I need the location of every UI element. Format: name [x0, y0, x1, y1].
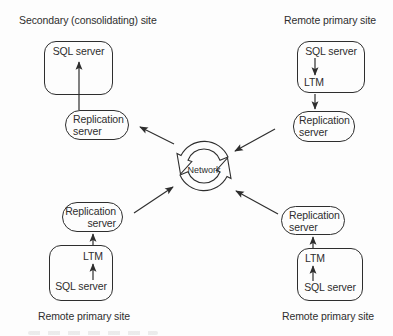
sql-server-label-remote-bottom-left: SQL server: [50, 281, 112, 293]
sql-ltm-box-remote-bottom-left: LTM SQL server: [49, 245, 113, 301]
replication-label-line1: Replication: [299, 115, 354, 127]
sql-server-box-secondary: SQL server: [44, 41, 113, 95]
replication-server-node-remote-top-right: Replication server: [293, 111, 355, 142]
sql-server-label-secondary: SQL server: [45, 42, 112, 58]
ltm-label-remote-bottom-left: LTM: [83, 251, 103, 263]
replication-server-node-secondary: Replication server: [65, 110, 129, 140]
cropped-caption-remnant: [28, 331, 158, 335]
replication-label-line2: server: [299, 127, 354, 139]
site-label-secondary: Secondary (consolidating) site: [19, 15, 157, 27]
site-label-remote-top-right: Remote primary site: [284, 15, 376, 27]
sql-ltm-box-remote-bottom-right: LTM SQL server: [297, 248, 363, 301]
site-label-remote-bottom-left: Remote primary site: [38, 311, 130, 323]
replication-label-line2: server: [289, 222, 344, 234]
arrow-remote-top-right-to-network: [235, 129, 275, 151]
replication-server-node-remote-bottom-left: Replication server: [62, 202, 123, 232]
site-label-remote-bottom-right: Remote primary site: [282, 311, 374, 323]
sql-ltm-box-remote-top-right: SQL server LTM: [297, 41, 365, 93]
ltm-label-remote-top-right: LTM: [304, 77, 324, 89]
replication-label-line2: server: [73, 126, 128, 138]
ltm-label-remote-bottom-right: LTM: [305, 253, 325, 265]
diagram-canvas: { "sites": { "top_left": { "label": "Sec…: [0, 0, 393, 336]
sql-server-label-remote-bottom-right: SQL server: [298, 282, 362, 294]
network-label: Network: [187, 165, 221, 175]
replication-label-line1: Replication: [63, 206, 116, 218]
network-icon: Network: [168, 136, 240, 196]
arrow-remote-bottom-right-to-network: [236, 191, 278, 214]
replication-label-line1: Replication: [73, 114, 128, 126]
replication-label-line1: Replication: [289, 210, 344, 222]
replication-label-line2: server: [63, 218, 116, 230]
sql-server-label-remote-top-right: SQL server: [298, 42, 364, 58]
replication-server-node-remote-bottom-right: Replication server: [281, 206, 345, 235]
